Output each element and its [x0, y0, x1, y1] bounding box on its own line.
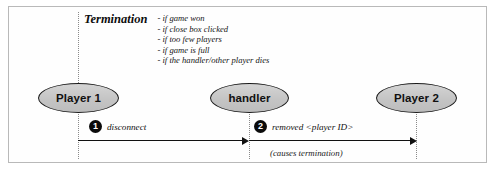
actor-handler[interactable]: handler: [210, 83, 289, 113]
sequence-diagram-figure: Termination - if game won - if close box…: [0, 0, 497, 174]
message-2-line: [249, 140, 410, 141]
actor-player2[interactable]: Player 2: [376, 83, 457, 113]
message-1-line: [78, 140, 242, 141]
termination-condition-item: - if too few players: [157, 34, 269, 45]
termination-condition-item: - if the handler/other player dies: [157, 55, 269, 66]
message-1-label: disconnect: [107, 122, 146, 132]
message-1-number-badge: 1: [89, 120, 102, 133]
message-2-number-badge: 2: [254, 120, 267, 133]
termination-condition-item: - if game is full: [157, 45, 269, 56]
termination-note: Termination - if game won - if close box…: [84, 13, 269, 66]
message-1-arrowhead: [242, 137, 249, 145]
actor-handler-label: handler: [228, 92, 270, 104]
actor-player1-label: Player 1: [56, 92, 101, 104]
termination-note-title: Termination: [84, 13, 147, 25]
actor-player1[interactable]: Player 1: [38, 83, 119, 113]
message-2-label: removed <player ID>: [272, 122, 353, 132]
causes-termination-annotation: (causes termination): [270, 148, 343, 158]
actor-player2-label: Player 2: [394, 92, 439, 104]
termination-condition-item: - if close box clicked: [157, 24, 269, 35]
termination-condition-list: - if game won - if close box clicked - i…: [157, 13, 269, 66]
termination-condition-item: - if game won: [157, 13, 269, 24]
message-2-arrowhead: [410, 137, 417, 145]
